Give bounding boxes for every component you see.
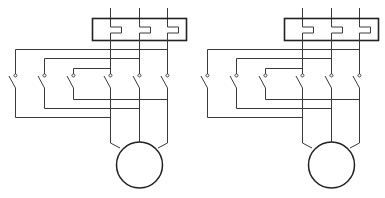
circuit-right xyxy=(201,8,379,188)
circuit-left xyxy=(9,8,187,188)
diagram-canvas xyxy=(0,0,385,198)
